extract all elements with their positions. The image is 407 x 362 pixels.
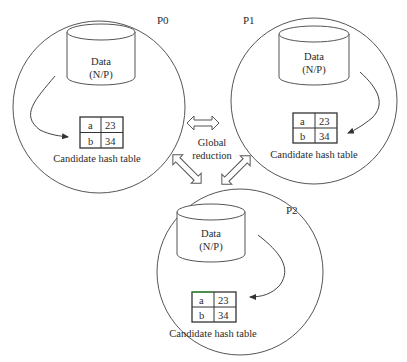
p2-key-b: b	[199, 310, 204, 321]
p0-key-a: a	[88, 120, 93, 131]
p0-hash-table: a 23 b 34	[80, 117, 123, 148]
global-reduction-line2: reduction	[192, 150, 232, 161]
p0-caption: Candidate hash table	[53, 153, 141, 164]
p1-caption: Candidate hash table	[270, 149, 358, 160]
p2-caption: Candidate hash table	[169, 328, 257, 339]
p0-value-a: 23	[105, 120, 116, 131]
p1-flow-arrow-icon	[348, 72, 379, 133]
p1-value-a: 23	[319, 116, 330, 127]
p0-data-label: Data	[91, 56, 111, 67]
processor-p1-label: P1	[243, 14, 255, 26]
global-reduction-line1: Global	[198, 137, 227, 148]
p2-value-a: 23	[218, 295, 229, 306]
p0-flow-arrow-icon	[31, 76, 68, 137]
p1-data-share: (N/P)	[302, 64, 326, 76]
p1-hash-table: a 23 b 34	[293, 113, 337, 143]
p0-data-share: (N/P)	[89, 69, 113, 81]
parallel-hash-table-diagram: P0 Data (N/P) a 23 b 34 Candidate hash t…	[0, 0, 407, 362]
p1-key-a: a	[300, 116, 305, 127]
p0-p1-double-arrow-icon	[187, 116, 219, 130]
p2-data-label: Data	[201, 228, 221, 239]
p0-value-b: 34	[105, 136, 116, 147]
processor-p2-label: P2	[286, 204, 298, 216]
processor-p0: P0 Data (N/P) a 23 b 34 Candidate hash t…	[13, 14, 185, 193]
p2-key-a: a	[199, 295, 204, 306]
p2-hash-table: a 23 b 34	[192, 292, 236, 322]
p2-data-share: (N/P)	[199, 241, 223, 253]
p1-value-b: 34	[319, 131, 330, 142]
p1-key-b: b	[300, 131, 305, 142]
processor-p1: P1 Data (N/P) a 23 b 34 Candidate hash t…	[231, 14, 397, 184]
global-reduction: Global reduction	[168, 116, 255, 189]
p0-key-b: b	[88, 136, 93, 147]
p1-data-label: Data	[304, 51, 324, 62]
p2-value-b: 34	[218, 310, 229, 321]
processor-p0-label: P0	[157, 14, 169, 26]
processor-p2: P2 Data (N/P) a 23 b 34 Candidate hash t…	[157, 189, 323, 355]
p2-flow-arrow-icon	[250, 235, 285, 297]
